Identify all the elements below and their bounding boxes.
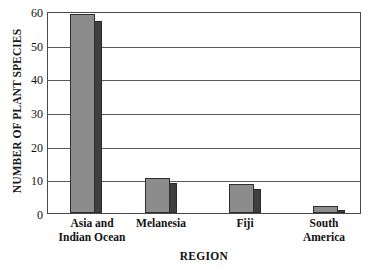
bar-chart: NUMBER OF PLANT SPECIES 60 50 40 30 20 1…: [0, 0, 370, 270]
y-tick-label: 10: [3, 175, 43, 187]
plot-area: [47, 12, 361, 214]
bar-front-south-america: [313, 206, 338, 213]
bar-back-melanesia: [169, 183, 177, 213]
bar-front-fiji: [229, 184, 254, 213]
bar-front-asia: [70, 14, 95, 213]
bar-back-south-america: [337, 210, 345, 213]
bar-back-fiji: [253, 189, 261, 213]
y-tick-label: 60: [3, 7, 43, 19]
x-label-south-america: South America: [269, 217, 370, 244]
x-label-line: Indian Ocean: [37, 231, 147, 245]
y-tick-label: 30: [3, 108, 43, 120]
y-axis-tick-labels: 60 50 40 30 20 10 0: [0, 12, 43, 214]
y-tick-label: 20: [3, 142, 43, 154]
x-axis-category-labels: Asia and Indian Ocean Melanesia Fiji Sou…: [47, 217, 361, 251]
bar-back-asia: [94, 21, 102, 213]
x-label-line: South: [269, 217, 370, 231]
y-tick-label: 40: [3, 74, 43, 86]
y-tick-label: 50: [3, 41, 43, 53]
x-axis-title: REGION: [47, 250, 361, 262]
bar-front-melanesia: [145, 178, 170, 213]
x-label-line: America: [269, 231, 370, 245]
